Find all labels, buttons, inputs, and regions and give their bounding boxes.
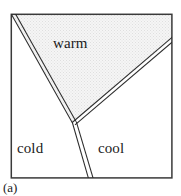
region-label-cold: cold xyxy=(17,141,43,156)
occlusion-boundary xyxy=(72,122,93,179)
air-mass-sector-diagram xyxy=(0,0,181,196)
region-label-warm: warm xyxy=(53,36,88,51)
figure-container: warm cold cool (a) xyxy=(0,0,181,196)
figure-caption: (a) xyxy=(3,181,17,194)
region-label-cool: cool xyxy=(98,141,124,156)
